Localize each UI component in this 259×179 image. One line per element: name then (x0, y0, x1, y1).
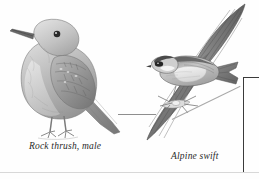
leader-rule-left (118, 114, 156, 115)
alpine-swift-illustration (140, 2, 246, 142)
caption-rock-thrush: Rock thrush, male (29, 141, 101, 152)
rock-thrush-illustration (8, 12, 126, 140)
caption-alpine-swift: Alpine swift (171, 151, 219, 162)
frame-line-horizontal (243, 77, 259, 78)
bottom-page-rule (0, 172, 259, 173)
frame-line-vertical (243, 77, 244, 173)
illustration-plate: Rock thrush, male Alpine swift (0, 0, 259, 179)
